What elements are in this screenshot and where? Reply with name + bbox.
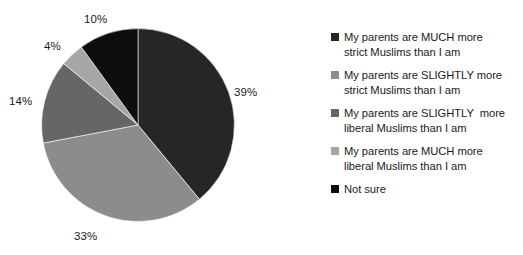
chart-legend: My parents are MUCH more strict Muslims … xyxy=(331,30,523,197)
legend-swatch-icon xyxy=(331,33,339,41)
legend-item-label: My parents are SLIGHTLY more liberal Mus… xyxy=(344,106,505,135)
pie-value-label-2: 14% xyxy=(9,95,32,107)
legend-item[interactable]: My parents are SLIGHTLY more strict Musl… xyxy=(331,68,523,97)
legend-item-label: Not sure xyxy=(344,182,386,197)
legend-swatch-icon xyxy=(331,147,339,155)
legend-item[interactable]: My parents are MUCH more strict Muslims … xyxy=(331,30,523,59)
pie-value-label-0: 39% xyxy=(234,86,257,98)
pie-chart-figure: 39% 33% 14% 4% 10% My parents are MUCH m… xyxy=(0,0,523,255)
legend-item[interactable]: Not sure xyxy=(331,182,523,197)
legend-item-label: My parents are SLIGHTLY more strict Musl… xyxy=(344,68,502,97)
pie-value-label-3: 4% xyxy=(44,40,61,52)
legend-swatch-icon xyxy=(331,185,339,193)
legend-item[interactable]: My parents are MUCH more liberal Muslims… xyxy=(331,144,523,173)
pie-value-label-1: 33% xyxy=(74,230,97,242)
legend-item-label: My parents are MUCH more strict Muslims … xyxy=(344,30,483,59)
pie-svg xyxy=(41,28,235,222)
legend-swatch-icon xyxy=(331,71,339,79)
legend-item-label: My parents are MUCH more liberal Muslims… xyxy=(344,144,483,173)
pie-value-label-4: 10% xyxy=(84,13,107,25)
pie-plot-area: 39% 33% 14% 4% 10% xyxy=(0,0,320,255)
legend-item[interactable]: My parents are SLIGHTLY more liberal Mus… xyxy=(331,106,523,135)
legend-swatch-icon xyxy=(331,109,339,117)
pie-slice-group xyxy=(42,29,235,222)
